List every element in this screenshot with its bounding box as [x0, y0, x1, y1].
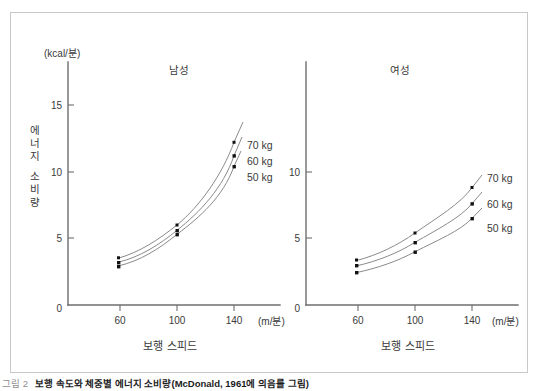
x-tick-label-left: 60 — [114, 315, 126, 326]
x-tick-label-right: 60 — [352, 315, 364, 326]
data-point — [176, 224, 179, 227]
data-point — [117, 265, 120, 268]
x-tick-label-left: 100 — [169, 315, 186, 326]
y-tick-label-left: 10 — [51, 167, 63, 178]
data-point — [233, 154, 236, 157]
y-title-char: 너 — [30, 137, 40, 149]
data-point — [233, 165, 236, 168]
figure-caption: 그림 2 보행 속도와 체중별 에너지 소비량(McDonald, 1961에 … — [0, 378, 538, 391]
y-tick-label-left: 5 — [56, 233, 62, 244]
x-axis-unit-label-right: (m/분) — [492, 316, 519, 327]
data-point — [414, 232, 417, 235]
y-title-char: 소 — [30, 170, 40, 182]
series-label-female-60kg: 60 kg — [487, 198, 513, 210]
data-point — [414, 241, 417, 244]
x-axis-title-right: 보행 스피드 — [381, 340, 434, 352]
y-tick-label-left: 0 — [56, 303, 62, 314]
y-tick-label-right: 10 — [289, 167, 301, 178]
series-label-female-70kg: 70 kg — [487, 172, 513, 184]
y-title-char: 비 — [30, 183, 40, 195]
data-point — [471, 186, 474, 189]
data-point — [176, 229, 179, 232]
y-tick-label-right: 0 — [294, 303, 300, 314]
data-point — [117, 256, 120, 259]
data-point — [355, 259, 358, 262]
x-axis-title-left: 보행 스피드 — [143, 340, 196, 352]
x-axis-unit-label-left: (m/분) — [258, 316, 285, 327]
series-label-male-70kg: 70 kg — [247, 139, 273, 151]
panel-title-male: 남성 — [169, 64, 189, 76]
data-point — [355, 264, 358, 267]
series-label-male-60kg: 60 kg — [247, 155, 273, 167]
series-label-male-50kg: 50 kg — [247, 171, 273, 183]
dual-line-chart: (kcal/분) 남성 에 너 지 소 비 량 15 10 5 0 — [10, 12, 528, 373]
y-axis-unit-label-left: (kcal/분) — [44, 48, 80, 59]
y-axis-title-left: 에 너 지 소 비 량 — [30, 124, 40, 208]
data-point — [233, 141, 236, 144]
x-tick-label-right: 140 — [464, 315, 481, 326]
y-title-char: 량 — [30, 196, 40, 208]
y-title-char: 에 — [30, 124, 40, 136]
caption-text: 보행 속도와 체중별 에너지 소비량(McDonald, 1961에 의음를 그… — [35, 378, 309, 390]
data-point — [117, 261, 120, 264]
figure-container: (kcal/분) 남성 에 너 지 소 비 량 15 10 5 0 — [0, 0, 538, 391]
y-tick-label-right: 5 — [294, 233, 300, 244]
y-tick-label-left: 15 — [51, 100, 63, 111]
curve-male-70kg — [118, 122, 243, 258]
curve-male-60kg — [118, 137, 242, 262]
panel-female: 여성 10 5 0 60 100 140 (m/분) 보행 스피드 — [289, 62, 519, 352]
data-point — [414, 251, 417, 254]
panel-male: (kcal/분) 남성 에 너 지 소 비 량 15 10 5 0 — [30, 48, 285, 352]
data-point — [176, 233, 179, 236]
data-point — [471, 202, 474, 205]
curve-female-70kg — [356, 175, 482, 261]
y-title-char: 지 — [30, 150, 40, 162]
series-label-female-50kg: 50 kg — [487, 222, 513, 234]
panel-title-female: 여성 — [390, 64, 410, 76]
data-point — [355, 271, 358, 274]
data-point — [471, 217, 474, 220]
x-tick-label-right: 100 — [407, 315, 424, 326]
caption-tag: 그림 2 — [2, 378, 28, 390]
x-tick-label-left: 140 — [226, 315, 243, 326]
